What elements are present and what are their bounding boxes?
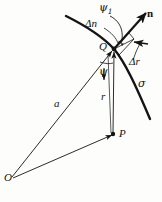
label-psi: ψ (99, 66, 108, 77)
label-psi-1: ψ1 (99, 2, 112, 16)
label-delta-r: Δr (129, 56, 140, 67)
label-r: r (101, 91, 105, 102)
point-marker-q (112, 47, 117, 52)
vector-r (113, 52, 114, 133)
label-normal-vector-n: n (147, 8, 153, 19)
label-psi-1-subscript: 1 (108, 7, 113, 16)
geometry-figure: Q P O ψ1 Δn Δr n σ ψ r a (0, 0, 162, 202)
point-label-q: Q (99, 41, 107, 52)
point-label-o: O (4, 172, 12, 183)
figure-canvas (0, 0, 162, 202)
label-a: a (54, 98, 60, 109)
label-delta-n: Δn (85, 18, 97, 29)
label-sigma: σ (138, 78, 146, 89)
point-label-p: P (119, 128, 126, 139)
vector-a (12, 51, 112, 177)
label-psi-1-base: ψ (99, 1, 108, 14)
point-marker-p (111, 132, 115, 136)
vector-r-secondary (108, 54, 111, 133)
curve-sigma (66, 16, 150, 119)
